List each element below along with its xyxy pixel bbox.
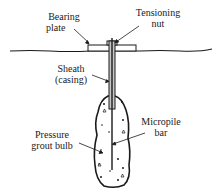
bearing-plate-label-line2: plate — [42, 22, 86, 33]
grout-bulb-label-line2: grout bulb — [24, 140, 80, 151]
bearing-plate-label-line1: Bearing — [42, 11, 86, 22]
micropile-bar-label: Micropile bar — [136, 116, 186, 138]
micropile-bar-label-line2: bar — [136, 127, 186, 138]
micropile-diagram: Bearing plate Tensioning nut Sheath (cas… — [0, 0, 217, 193]
tensioning-nut-label-line2: nut — [130, 18, 186, 29]
sheath-label-line1: Sheath — [48, 63, 94, 74]
tensioning-nut-label: Tensioning nut — [130, 7, 186, 29]
tensioning-nut-label-line1: Tensioning — [130, 7, 186, 18]
sheath-label: Sheath (casing) — [48, 63, 94, 85]
bearing-plate-label: Bearing plate — [42, 11, 86, 33]
micropile-bar-label-line1: Micropile — [136, 116, 186, 127]
sheath-label-line2: (casing) — [48, 74, 94, 85]
grout-bulb-label: Pressure grout bulb — [24, 129, 80, 151]
grout-bulb-label-line1: Pressure — [24, 129, 80, 140]
